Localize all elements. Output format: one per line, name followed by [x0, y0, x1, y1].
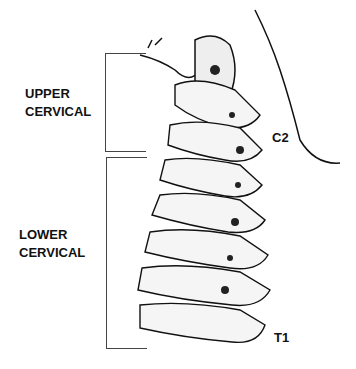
t1-label: T1	[274, 329, 289, 347]
c2-label: C2	[272, 129, 289, 147]
cervical-spine-illustration	[0, 0, 356, 369]
